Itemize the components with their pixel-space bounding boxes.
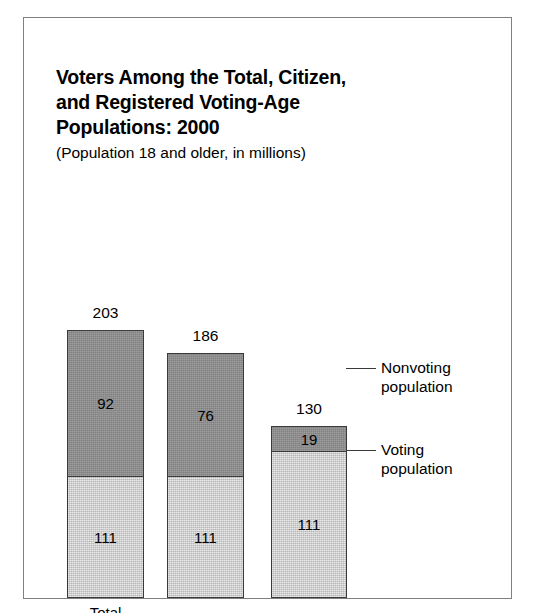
leader-line-voting bbox=[346, 450, 376, 451]
bar-value-nonvoting-registered-population: 19 bbox=[301, 432, 318, 447]
legend-label-line-2: population bbox=[381, 459, 453, 478]
legend-label-line-2: population bbox=[381, 377, 453, 396]
legend-item-nonvoting-population: Nonvoting population bbox=[381, 358, 453, 396]
bar-group-registered-population: 130 19 111 Registered population bbox=[271, 426, 347, 598]
legend-item-voting-population: Voting population bbox=[381, 440, 453, 478]
category-label-total-population: Total population bbox=[49, 604, 162, 613]
bar-value-voting-registered-population: 111 bbox=[298, 517, 321, 532]
bar-value-nonvoting-total-population: 92 bbox=[97, 396, 114, 411]
bar-value-voting-citizen-population: 111 bbox=[194, 530, 217, 545]
bar-group-total-population: 203 92 111 Total population bbox=[67, 330, 144, 598]
bar-segment-voting-total-population: 111 bbox=[67, 476, 144, 598]
bar-total-label-registered-population: 130 bbox=[271, 400, 347, 418]
chart-frame: Voters Among the Total, Citizen, and Reg… bbox=[23, 17, 512, 599]
bar-value-voting-total-population: 111 bbox=[94, 530, 117, 545]
category-label-line-1: Total bbox=[49, 604, 162, 613]
bar-group-citizen-population: 186 76 111 Citizen population bbox=[167, 353, 244, 598]
legend-label-line-1: Voting bbox=[381, 440, 453, 459]
bar-value-nonvoting-citizen-population: 76 bbox=[197, 408, 214, 423]
bar-segment-nonvoting-citizen-population: 76 bbox=[167, 353, 244, 477]
bar-segment-voting-registered-population: 111 bbox=[271, 451, 347, 598]
bar-total-label-total-population: 203 bbox=[67, 304, 144, 322]
bar-segment-nonvoting-registered-population: 19 bbox=[271, 426, 347, 452]
bar-segment-voting-citizen-population: 111 bbox=[167, 476, 244, 598]
plot-area: 203 92 111 Total population 186 76 111 C… bbox=[24, 18, 511, 598]
legend-label-line-1: Nonvoting bbox=[381, 358, 453, 377]
bar-segment-nonvoting-total-population: 92 bbox=[67, 330, 144, 477]
leader-line-nonvoting bbox=[346, 368, 376, 369]
bar-total-label-citizen-population: 186 bbox=[167, 327, 244, 345]
